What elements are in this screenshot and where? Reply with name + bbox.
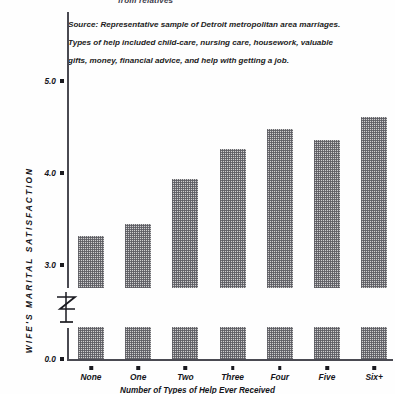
bar-stub xyxy=(267,327,293,359)
bar-stub xyxy=(361,327,387,359)
x-tick-marker xyxy=(372,366,376,370)
x-tick-label: Five xyxy=(319,372,336,382)
x-tick-marker xyxy=(278,366,282,370)
x-tick-label: None xyxy=(81,372,102,382)
y-tick-label: 0.0 xyxy=(44,354,56,364)
source-note: Source: Representative sample of Detroit… xyxy=(68,16,390,70)
bar xyxy=(78,236,104,288)
bar-stub xyxy=(220,327,246,359)
bar xyxy=(361,117,387,288)
x-tick-label: Six+ xyxy=(365,372,382,382)
bar xyxy=(172,179,198,288)
bar-stub xyxy=(172,327,198,359)
bar xyxy=(220,149,246,288)
x-axis-line xyxy=(67,359,393,361)
x-tick-label: Four xyxy=(270,372,289,382)
bar-chart-figure: from relatives Source: Representative sa… xyxy=(0,0,395,394)
source-note-line: gifts, money, financial advice, and help… xyxy=(68,52,390,70)
title-fragment: from relatives xyxy=(118,0,173,5)
x-tick-marker xyxy=(325,366,329,370)
x-tick-marker xyxy=(89,366,93,370)
x-tick-label: Three xyxy=(221,372,244,382)
y-axis-break-icon xyxy=(51,288,83,328)
bar-stub xyxy=(125,327,151,359)
bar xyxy=(267,129,293,288)
x-tick-marker xyxy=(184,366,188,370)
source-note-line: Source: Representative sample of Detroit… xyxy=(68,16,390,34)
y-tick-marker xyxy=(60,79,64,83)
y-axis-title: WIFE'S MARITAL SATISFACTION xyxy=(24,165,34,355)
x-tick-marker xyxy=(231,366,235,370)
y-tick-label: 4.0 xyxy=(44,168,56,178)
x-axis-title: Number of Types of Help Ever Received xyxy=(0,386,395,394)
bar xyxy=(125,224,151,288)
x-tick-marker xyxy=(136,366,140,370)
bar-stub xyxy=(78,327,104,359)
y-tick-marker xyxy=(60,263,64,267)
source-note-line: Types of help included child-care, nursi… xyxy=(68,34,390,52)
x-tick-label: One xyxy=(130,372,146,382)
y-tick-label: 5.0 xyxy=(44,76,56,86)
x-tick-label: Two xyxy=(177,372,193,382)
y-tick-label: 3.0 xyxy=(44,260,56,270)
y-tick-marker xyxy=(60,357,64,361)
bar xyxy=(314,140,340,288)
y-tick-marker xyxy=(60,171,64,175)
bar-stub xyxy=(314,327,340,359)
